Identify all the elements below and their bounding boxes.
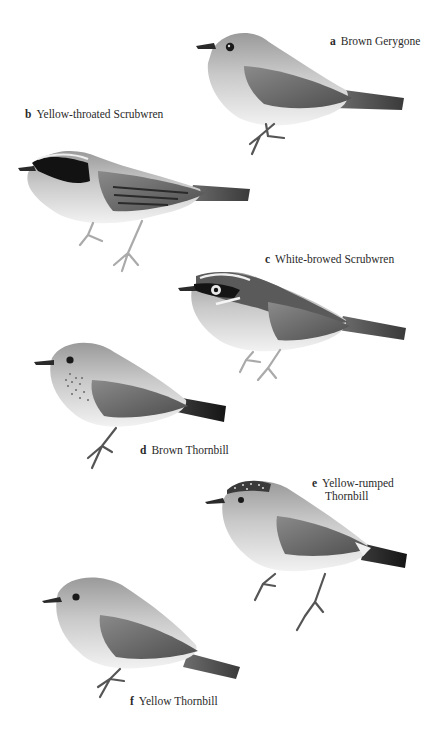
field-guide-plate: aBrown Gerygone bYellow-throated Scrubwr… <box>0 0 428 730</box>
species-label-a: aBrown Gerygone <box>330 35 420 48</box>
species-letter: f <box>130 695 134 707</box>
bird-illustration-yellow-throated-scrubwren <box>18 145 253 277</box>
species-label-b: bYellow-throated Scrubwren <box>25 108 163 121</box>
species-name: Brown Gerygone <box>341 35 421 47</box>
species-letter: a <box>330 35 336 47</box>
species-name: Yellow Thornbill <box>139 695 218 707</box>
species-letter: d <box>140 444 146 456</box>
bird-illustration-yellow-thornbill <box>40 575 242 705</box>
species-letter: b <box>25 108 31 120</box>
species-name: White-browed Scrubwren <box>275 253 394 265</box>
species-label-c: cWhite-browed Scrubwren <box>265 253 394 266</box>
species-label-d: dBrown Thornbill <box>140 444 229 457</box>
species-letter: c <box>265 253 270 265</box>
species-name: Yellow-throated Scrubwren <box>36 108 163 120</box>
species-label-f: fYellow Thornbill <box>130 695 218 708</box>
species-name: Brown Thornbill <box>151 444 228 456</box>
